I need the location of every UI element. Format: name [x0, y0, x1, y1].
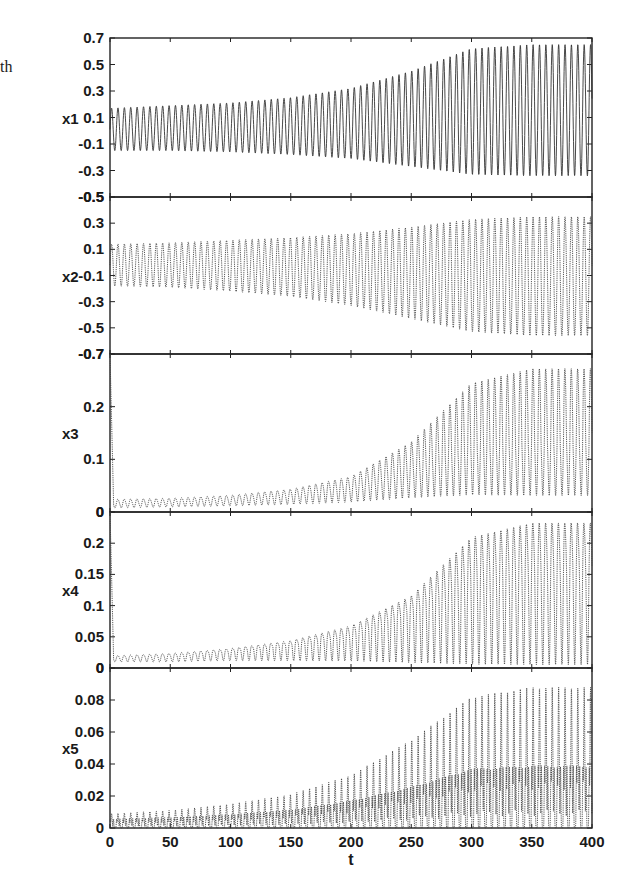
y-tick-label: -0.1: [78, 267, 104, 284]
stray-text: th: [0, 58, 12, 75]
x-tick-label: 150: [278, 833, 303, 850]
x-tick-label: 0: [106, 833, 114, 850]
y-tick-label: 0: [96, 819, 104, 836]
series-line-x4: [110, 512, 592, 665]
y-tick-label: 0.1: [83, 597, 104, 614]
y-tick-label: 0.2: [83, 534, 104, 551]
y-tick-label: 0.1: [83, 240, 104, 257]
panel-x3: 0.20.10x3: [62, 354, 592, 520]
y-tick-label: 0.1: [83, 109, 104, 126]
y-tick-label: 0.1: [83, 450, 104, 467]
y-tick-label: 0.15: [75, 565, 104, 582]
x-tick-label: 300: [459, 833, 484, 850]
plot-frame: [110, 197, 592, 354]
y-tick-label: 0.5: [83, 56, 104, 73]
x-tick-label: 100: [218, 833, 243, 850]
x-tick-label: 350: [519, 833, 544, 850]
y-tick-label: 0.04: [75, 755, 105, 772]
y-axis-label: x2: [62, 268, 79, 285]
y-tick-label: -0.3: [78, 293, 104, 310]
y-edge-label: 0: [96, 503, 104, 520]
y-edge-label: 0: [96, 659, 104, 676]
y-tick-label: 0.2: [83, 398, 104, 415]
y-axis-label: x5: [62, 740, 79, 757]
stacked-time-series-figure: th 0.70.50.30.1-0.1-0.3-0.5x10.30.1-0.1-…: [0, 0, 638, 891]
panel-x4: 0.20.150.10.050x4: [62, 512, 592, 676]
x-tick-label: 200: [338, 833, 363, 850]
panel-x1: 0.70.50.30.1-0.1-0.3-0.5x1: [62, 29, 592, 205]
series-line-x1: [110, 45, 592, 176]
plot-frame: [110, 512, 592, 668]
panel-x5: 0.080.060.040.020x5050100150200250300350…: [62, 668, 605, 868]
y-tick-label: -0.5: [78, 319, 104, 336]
y-axis-label: x1: [62, 110, 79, 127]
series-line-x2: [110, 217, 592, 336]
x-tick-label: 250: [399, 833, 424, 850]
x-axis-label: t: [348, 851, 354, 868]
y-tick-label: 0.06: [75, 723, 104, 740]
y-tick-label: -0.3: [78, 162, 104, 179]
y-tick-label: 0.3: [83, 214, 104, 231]
x-tick-label: 400: [579, 833, 604, 850]
x-tick-label: 50: [162, 833, 179, 850]
series-line-x3: [110, 354, 592, 508]
y-tick-label: 0.05: [75, 628, 104, 645]
y-edge-label: -0.7: [78, 345, 104, 362]
y-tick-label: 0.7: [83, 29, 104, 46]
y-axis-label: x3: [62, 425, 79, 442]
y-tick-label: 0.08: [75, 691, 104, 708]
series-line-x5: [110, 687, 592, 828]
y-tick-label: 0.3: [83, 82, 104, 99]
y-tick-label: -0.1: [78, 135, 104, 152]
y-edge-label: -0.5: [78, 188, 104, 205]
y-axis-label: x4: [62, 582, 79, 599]
panel-x2: 0.30.1-0.1-0.3-0.5-0.7x2: [62, 197, 592, 362]
plot-frame: [110, 354, 592, 512]
y-tick-label: 0.02: [75, 787, 104, 804]
